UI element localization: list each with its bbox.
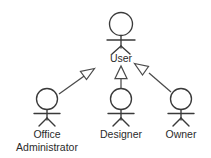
actor-label-owner: Owner [166,128,197,140]
actor-head-icon [171,89,192,110]
actor-office-administrator[interactable]: Office Administrator [16,89,78,153]
hollow-triangle-arrowhead-icon [115,66,127,79]
generalization-line [59,74,87,94]
diagram-canvas: User Office Administrator Designer [0,0,211,158]
actor-owner[interactable]: Owner [166,89,197,140]
actor-right-leg-icon [181,118,189,126]
actor-head-icon [110,13,133,36]
actor-label-office-administrator-line1: Office [33,128,60,140]
actor-designer[interactable]: Designer [100,89,143,140]
actor-label-designer: Designer [100,128,143,140]
actor-left-leg-icon [39,118,47,126]
actor-right-leg-icon [121,118,129,126]
generalization-office-administrator-to-user[interactable] [59,69,95,95]
actor-head-icon [111,89,132,110]
actor-label-office-administrator-line2: Administrator [16,141,78,153]
actor-left-leg-icon [113,118,121,126]
uml-actor-generalization-diagram: User Office Administrator Designer [0,0,211,158]
generalization-owner-to-user[interactable] [135,64,172,93]
actor-head-icon [37,89,58,110]
actor-label-user: User [110,52,133,64]
actor-right-leg-icon [47,118,55,126]
actor-user[interactable]: User [107,13,135,64]
generalization-line [149,73,171,92]
hollow-triangle-arrowhead-icon [135,64,149,76]
actor-left-leg-icon [173,118,181,126]
generalization-designer-to-user[interactable] [115,66,127,88]
